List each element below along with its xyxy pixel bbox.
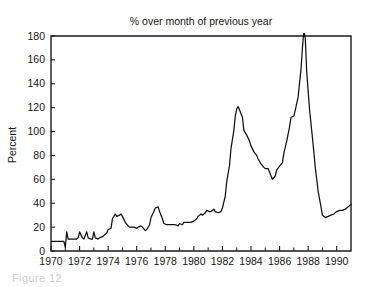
x-axis-ticks: 1970197219741976197819801982198419861988… bbox=[39, 246, 348, 267]
y-tick-label: 180 bbox=[27, 30, 45, 42]
x-tick-label: 1974 bbox=[96, 255, 120, 267]
y-tick-label: 60 bbox=[33, 173, 45, 185]
x-tick-label: 1984 bbox=[239, 255, 263, 267]
x-tick-label: 1978 bbox=[154, 255, 178, 267]
x-tick-label: 1970 bbox=[39, 255, 63, 267]
x-tick-label: 1990 bbox=[325, 255, 349, 267]
y-tick-label: 80 bbox=[33, 149, 45, 161]
x-tick-label: 1972 bbox=[68, 255, 92, 267]
y-tick-label: 140 bbox=[27, 77, 45, 89]
series-line bbox=[51, 30, 351, 247]
y-tick-label: 20 bbox=[33, 221, 45, 233]
x-tick-label: 1980 bbox=[182, 255, 206, 267]
chart-title: % over month of previous year bbox=[130, 15, 273, 27]
y-tick-label: 40 bbox=[33, 197, 45, 209]
x-tick-label: 1986 bbox=[268, 255, 292, 267]
x-tick-label: 1988 bbox=[296, 255, 320, 267]
y-tick-label: 120 bbox=[27, 101, 45, 113]
x-tick-label: 1982 bbox=[211, 255, 235, 267]
y-axis-title: Percent bbox=[6, 127, 18, 163]
x-tick-label: 1976 bbox=[125, 255, 149, 267]
line-chart: % over month of previous year Percent 02… bbox=[0, 0, 368, 287]
caption-fragment: Figure 12 bbox=[12, 272, 62, 284]
y-tick-label: 100 bbox=[27, 125, 45, 137]
y-tick-label: 160 bbox=[27, 53, 45, 65]
figure-container: % over month of previous year Percent 02… bbox=[0, 0, 368, 287]
